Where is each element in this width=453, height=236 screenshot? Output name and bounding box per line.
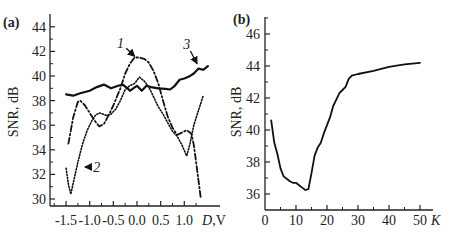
panel-b-label: (b)	[233, 12, 250, 28]
panel-a-x-ticks: -1.5-1.0-0.50.00.51.0	[54, 201, 196, 228]
y-tick-label: 30	[32, 192, 46, 207]
x-tick-label: 0.0	[128, 213, 146, 228]
panel-a-x-var: D	[201, 213, 212, 228]
y-tick-label: 40	[32, 69, 46, 84]
x-tick-label: -1.0	[79, 213, 101, 228]
y-tick-label: 38	[246, 155, 260, 170]
panel-b-y-label: SNR, dB	[229, 87, 244, 138]
x-tick-label: 0	[262, 213, 269, 228]
y-tick-label: 44	[32, 20, 46, 35]
panel-b-y-ticks: 363840424446	[246, 18, 270, 202]
x-tick-label: 1.0	[176, 213, 194, 228]
panel-a-x-unit: ,V	[212, 213, 226, 228]
panel-b: (b) 363840424446 01020304050 SNR, dB K	[229, 12, 441, 228]
x-tick-label: 20	[320, 213, 334, 228]
y-tick-label: 38	[32, 94, 46, 109]
panel-a-annotations: 123	[85, 36, 197, 175]
panel-a: (a) 3032343638404244 -1.5-1.0-0.50.00.51…	[3, 14, 226, 228]
x-tick-label: 0.5	[152, 213, 170, 228]
panel-a-y-ticks: 3032343638404244	[32, 20, 55, 207]
arrow-icon	[126, 48, 134, 56]
y-tick-label: 36	[246, 187, 260, 202]
figure: (a) 3032343638404244 -1.5-1.0-0.50.00.51…	[0, 0, 453, 236]
snr-vs-k-curve	[271, 63, 420, 190]
y-tick-label: 42	[32, 44, 46, 59]
panel-a-x-label: D,V	[201, 213, 226, 228]
x-tick-label: 30	[351, 213, 365, 228]
y-tick-label: 42	[246, 91, 260, 106]
panel-a-label: (a)	[3, 15, 20, 31]
y-tick-label: 36	[32, 118, 46, 133]
curve-label-3: 3	[182, 37, 190, 52]
curve-label-1: 1	[117, 36, 124, 51]
y-tick-label: 44	[246, 59, 260, 74]
x-tick-label: -1.5	[55, 213, 77, 228]
y-tick-label: 40	[246, 123, 260, 138]
x-tick-label: 10	[289, 213, 303, 228]
curve-2	[66, 77, 203, 194]
x-tick-label: 40	[382, 213, 396, 228]
y-tick-label: 32	[32, 167, 46, 182]
x-tick-label: -0.5	[102, 213, 124, 228]
arrow-icon	[190, 51, 197, 64]
panel-a-series	[66, 58, 208, 200]
panel-b-x-label: K	[430, 213, 441, 228]
panel-b-x-ticks: 01020304050	[262, 205, 428, 228]
panel-b-series	[271, 63, 420, 190]
y-tick-label: 46	[246, 27, 260, 42]
x-tick-label: 50	[413, 213, 427, 228]
panel-a-y-label: SNR, dB	[6, 87, 21, 138]
y-tick-label: 34	[32, 143, 46, 158]
curve-label-2: 2	[93, 160, 100, 175]
